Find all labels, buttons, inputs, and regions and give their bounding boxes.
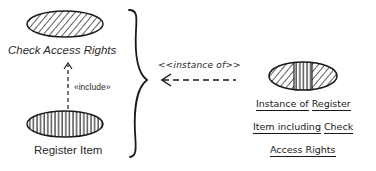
instance-caption-line-3: Access Rights xyxy=(270,144,336,155)
include-arrow xyxy=(64,63,72,109)
check-access-rights-label: Check Access Rights xyxy=(8,44,116,56)
caption-underlined-text: Register xyxy=(312,98,351,111)
instance-caption-line-1: Instance of Register xyxy=(256,98,351,109)
caption-underlined-text: Check xyxy=(324,121,353,134)
instance-caption-line-2: Item including Check xyxy=(253,121,353,132)
curly-brace-icon xyxy=(129,10,147,157)
instance-of-arrow xyxy=(162,74,236,86)
caption-underlined-text: Instance of xyxy=(256,98,309,111)
caption-underlined-text: Item including xyxy=(253,121,321,134)
instance-ellipse xyxy=(268,60,348,92)
register-item-label: Register Item xyxy=(34,144,102,156)
check-access-rights-ellipse xyxy=(27,11,103,37)
caption-underlined-text: Access Rights xyxy=(270,144,336,157)
instance-of-stereotype-label: <<instance of>> xyxy=(158,60,241,70)
include-stereotype-label: «include» xyxy=(74,82,110,92)
register-item-ellipse xyxy=(27,111,103,137)
